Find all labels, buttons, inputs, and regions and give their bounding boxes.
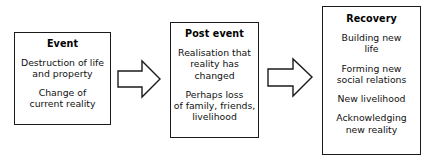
stage-text-recovery-1: Building new life [342,32,402,55]
stage-text-post-event-1: Realisation that reality has changed [178,47,251,81]
stage-text-event-2: Change of current reality [30,87,96,110]
stage-title-post-event: Post event [185,28,244,40]
stage-title-event: Event [47,38,78,50]
block-arrow-right-icon [267,57,313,98]
stage-text-recovery-2: Forming new social relations [337,63,407,86]
stage-title-recovery: Recovery [346,13,397,25]
stage-box-event: Event Destruction of life and property C… [14,32,111,125]
stage-text-recovery-3: New livelihood [338,93,406,104]
stage-text-post-event-2: Perhaps loss of family, friends, livelih… [174,89,256,123]
block-arrow-right-icon [117,59,161,99]
stage-box-recovery: Recovery Building new life Forming new s… [322,6,421,155]
stage-text-recovery-4: Acknowledging new reality [336,112,406,135]
process-flow-diagram: Event Destruction of life and property C… [0,0,431,162]
stage-text-event-1: Destruction of life and property [21,57,104,80]
stage-box-post-event: Post event Realisation that reality has … [170,22,259,138]
